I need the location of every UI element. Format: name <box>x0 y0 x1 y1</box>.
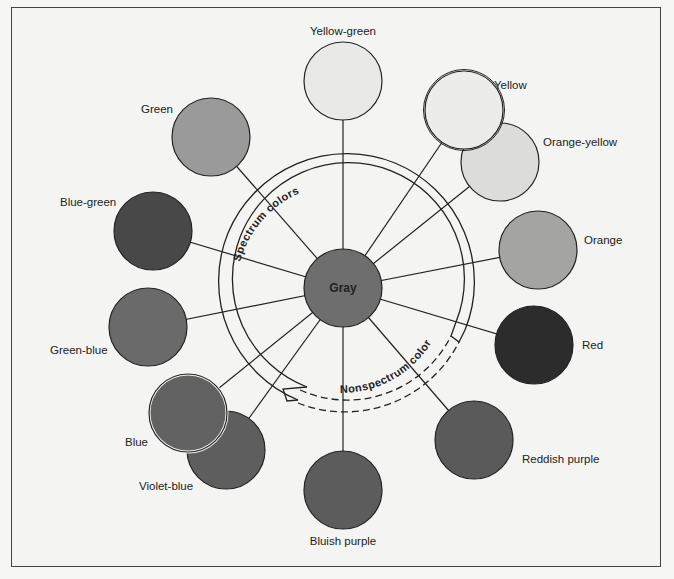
label-green: Green <box>141 103 173 115</box>
label-gray: Gray <box>329 281 357 295</box>
label-violet-blue: Violet-blue <box>139 480 193 492</box>
node-blue-green <box>114 192 192 270</box>
label-blue-green: Blue-green <box>60 196 116 208</box>
label-yellow-green: Yellow-green <box>310 25 376 37</box>
spectrum-colors-label: Spectrum colors <box>230 184 300 263</box>
node-reddish-purple <box>435 401 513 479</box>
nonspectrum-ring <box>298 336 459 412</box>
label-orange-yellow: Orange-yellow <box>543 136 618 148</box>
label-bluish-purple: Bluish purple <box>310 535 376 547</box>
node-green <box>172 98 250 176</box>
node-green-blue <box>109 288 187 366</box>
label-green-blue: Green-blue <box>50 344 108 356</box>
label-blue: Blue <box>125 436 148 448</box>
color-circle-diagram: Spectrum colors Nonspectrum colors Gray … <box>0 0 674 579</box>
node-orange <box>499 211 577 289</box>
node-red <box>495 306 573 384</box>
label-orange: Orange <box>584 234 622 246</box>
node-yellow <box>425 71 503 149</box>
label-red: Red <box>582 339 603 351</box>
label-yellow: Yellow <box>494 79 528 91</box>
label-reddish-purple: Reddish purple <box>522 453 599 465</box>
node-bluish-purple <box>304 451 382 529</box>
node-yellow-green <box>304 42 382 120</box>
